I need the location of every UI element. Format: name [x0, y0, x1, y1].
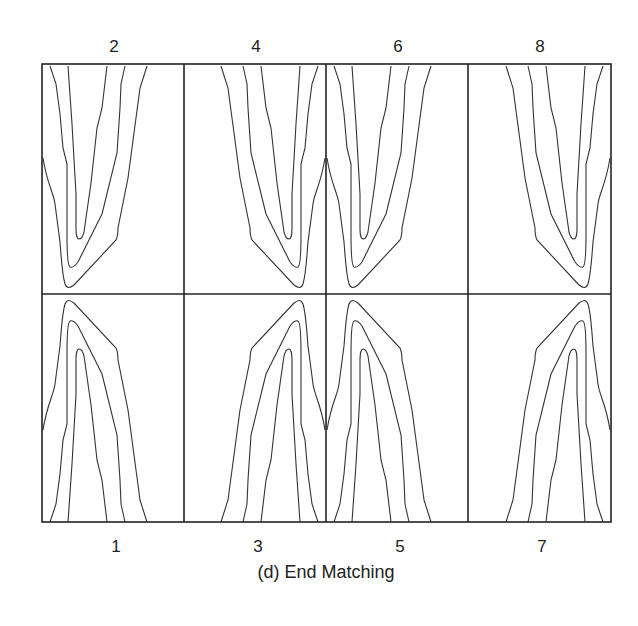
panel-1 [43, 301, 147, 523]
top-label-2: 2 [109, 38, 118, 55]
top-label-8: 8 [535, 38, 544, 55]
panel-6 [327, 66, 431, 288]
bottom-label-3: 3 [253, 538, 262, 555]
bottom-label-5: 5 [395, 538, 404, 555]
grid-frame [42, 64, 611, 522]
panel-2 [43, 66, 147, 288]
panel-4 [221, 66, 325, 288]
panel-5 [327, 301, 431, 523]
panel-3 [221, 301, 325, 523]
bottom-label-1: 1 [111, 538, 120, 555]
figure-caption: (d) End Matching [257, 563, 394, 581]
top-label-6: 6 [393, 38, 402, 55]
bottom-label-7: 7 [537, 538, 546, 555]
panel-8 [506, 66, 610, 288]
end-matching-diagram [0, 0, 638, 626]
top-label-4: 4 [251, 38, 260, 55]
panel-7 [506, 301, 610, 523]
